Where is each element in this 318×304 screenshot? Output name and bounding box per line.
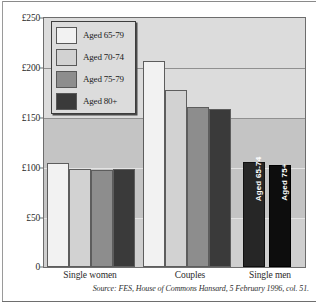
y-tick-label-200: £200: [2, 63, 40, 73]
legend-label-aged-65-79: Aged 65-79: [83, 30, 124, 40]
legend-label-aged-75-79: Aged 75-79: [83, 74, 124, 84]
figure-top-rule: [2, 1, 316, 2]
legend-item-aged-70-74: Aged 70-74: [56, 47, 124, 67]
bar-label-single-men-aged-65-74: Aged 65-74: [254, 157, 263, 202]
bar-single-men-aged-65-74: Aged 65-74: [243, 162, 265, 267]
legend-swatch-aged-70-74: [56, 49, 77, 66]
bar-single-women-aged-75-79: [91, 170, 113, 267]
legend-label-aged-70-74: Aged 70-74: [83, 52, 124, 62]
bar-couples-aged-65-79: [143, 61, 165, 267]
y-tick-label-0: 0: [2, 262, 40, 272]
bar-single-men-aged-75-plus: Aged 75+: [269, 165, 291, 267]
x-axis-label-single-men: Single men: [249, 270, 291, 280]
y-axis: £250 £200 £150 £100 £50 0: [0, 17, 40, 268]
x-axis-label-single-women: Single women: [63, 270, 116, 280]
bar-couples-aged-80-plus: [209, 109, 231, 267]
x-axis-label-couples: Couples: [175, 270, 205, 280]
legend-item-aged-65-79: Aged 65-79: [56, 25, 124, 45]
legend-item-aged-80-plus: Aged 80+: [56, 91, 117, 111]
chart-figure: £250 £200 £150 £100 £50 0: [0, 0, 318, 304]
y-tick-label-250: £250: [2, 13, 40, 23]
bar-couples-aged-70-74: [165, 90, 187, 267]
y-tick-label-150: £150: [2, 113, 40, 123]
legend-swatch-aged-75-79: [56, 71, 77, 88]
bar-couples-aged-75-79: [187, 107, 209, 267]
figure-bottom-rule: [2, 301, 316, 302]
bar-single-women-aged-65-79: [47, 163, 69, 267]
bar-single-women-aged-70-74: [69, 169, 91, 267]
source-note: Source: FES, House of Commons Hansard, 5…: [93, 284, 309, 293]
chart-legend: Aged 65-79 Aged 70-74 Aged 75-79 Aged 80…: [51, 21, 136, 114]
legend-swatch-aged-65-79: [56, 27, 77, 44]
legend-swatch-aged-80-plus: [56, 93, 77, 110]
y-tick-label-50: £50: [2, 213, 40, 223]
legend-item-aged-75-79: Aged 75-79: [56, 69, 124, 89]
bar-label-single-men-aged-75-plus: Aged 75+: [280, 163, 289, 200]
bar-single-women-aged-80-plus: [113, 169, 135, 267]
y-tick-label-100: £100: [2, 163, 40, 173]
legend-label-aged-80-plus: Aged 80+: [83, 96, 117, 106]
